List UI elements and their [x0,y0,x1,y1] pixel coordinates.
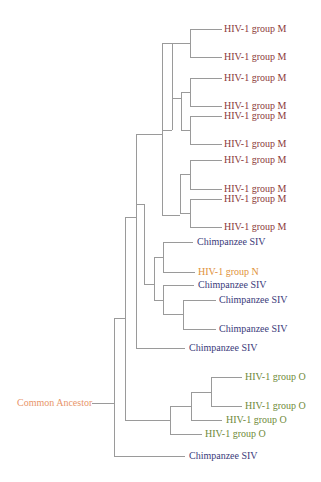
leaf-hiv-o: HIV-1 group O [245,371,306,383]
leaf-hiv-m: HIV-1 group M [224,221,286,233]
leaf-hiv-m: HIV-1 group M [224,72,286,84]
leaf-chimp-siv: Chimpanzee SIV [189,450,258,462]
leaf-chimp-siv: Chimpanzee SIV [219,323,288,335]
leaf-hiv-o: HIV-1 group O [245,400,306,412]
leaf-chimp-siv: Chimpanzee SIV [219,294,288,306]
leaf-hiv-o: HIV-1 group O [205,428,266,440]
leaf-chimp-siv: Chimpanzee SIV [197,236,266,248]
leaf-chimp-siv: Chimpanzee SIV [189,342,258,354]
leaf-hiv-m: HIV-1 group M [224,23,286,35]
leaf-hiv-m: HIV-1 group M [224,110,286,122]
root-label: Common Ancestor [17,397,92,409]
leaf-hiv-m: HIV-1 group M [224,154,286,166]
leaf-chimp-siv: Chimpanzee SIV [198,279,267,291]
leaf-hiv-m: HIV-1 group M [224,51,286,63]
leaf-hiv-m: HIV-1 group M [224,193,286,205]
leaf-hiv-m: HIV-1 group M [224,138,286,150]
leaf-hiv-o: HIV-1 group O [226,414,287,426]
leaf-hiv-n: HIV-1 group N [198,266,259,278]
